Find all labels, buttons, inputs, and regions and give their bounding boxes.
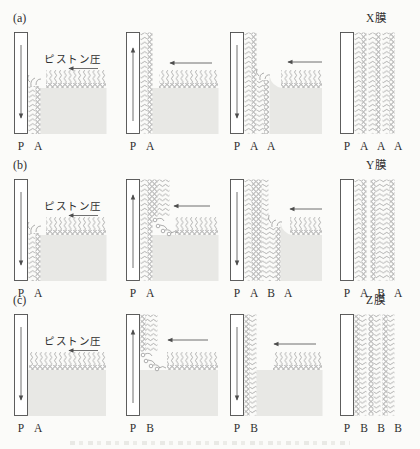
panel-c2-upstroke-deposition: P B	[122, 290, 227, 438]
depositing-layer-b-heads	[153, 180, 158, 217]
monolayer-heads	[281, 83, 322, 88]
monolayer-tails	[273, 352, 322, 365]
film-layer-a-heads	[252, 33, 257, 134]
monolayer-tails	[281, 70, 322, 83]
film-layer-a2-tails	[383, 180, 390, 281]
monolayer-tails	[46, 70, 106, 83]
plate	[341, 180, 354, 281]
panel-a4-labels: P A A A	[336, 139, 402, 153]
film-layer-b-tails	[250, 315, 257, 416]
deposited-layer-tails	[29, 233, 36, 281]
panel-a1-downstroke: P A	[10, 8, 115, 156]
label-p: P	[17, 139, 25, 153]
deposited-layer-tails	[269, 227, 276, 281]
film-layer-b-heads	[371, 180, 376, 281]
row-z-film: (c) ピストン圧 Z膜 P A	[0, 290, 420, 440]
monolayer-tails	[29, 352, 106, 365]
panel-b3-graphic	[226, 159, 331, 287]
curl-molecule-head	[167, 232, 171, 236]
monolayer-heads	[29, 365, 106, 370]
deposited-layer-heads	[36, 86, 41, 134]
film-layer-b-tails	[262, 180, 269, 281]
panel-b1-downstroke: P A	[10, 155, 115, 303]
film-layer-a2-heads	[390, 180, 395, 281]
panel-c3-second-downstroke-no-deposition: P B	[226, 290, 331, 438]
curl-molecule-head	[161, 229, 165, 233]
depositing-layer-b-heads	[141, 315, 146, 352]
panel-a4-graphic	[336, 12, 420, 140]
monolayer-tails	[46, 217, 106, 230]
film-layer-1-heads	[362, 33, 367, 134]
label-b: B	[146, 421, 154, 435]
film-layer-a-tails	[141, 180, 148, 281]
row-x-film: (a) ピストン圧 X膜 P A	[0, 8, 420, 158]
panel-c4-labels: P B B B	[336, 421, 402, 435]
panel-c4-graphic	[336, 294, 420, 422]
film-layer-b-heads	[257, 180, 262, 281]
panel-b4-graphic	[336, 159, 420, 287]
meniscus-curl	[28, 75, 41, 86]
label-b: B	[360, 421, 368, 435]
film-layer-a-heads	[362, 180, 367, 281]
film-layer-b-tails	[376, 180, 383, 281]
meniscus-curl	[28, 222, 41, 233]
curl-molecule-tails	[145, 353, 166, 368]
faint-caption-remnant	[70, 441, 350, 445]
panel-a1-graphic	[10, 12, 115, 140]
monolayer-heads	[159, 83, 218, 88]
curl-molecule-tails	[157, 218, 178, 233]
water	[28, 370, 106, 416]
deposited-layer-heads	[264, 80, 269, 134]
film-layer-a-tails	[245, 180, 252, 281]
monolayer-heads	[290, 230, 322, 235]
panel-a3-second-downstroke: P A A	[226, 8, 331, 156]
water	[41, 235, 107, 281]
panel-c1-labels: P A	[10, 421, 42, 435]
water	[153, 235, 219, 281]
film-layer-3-heads	[383, 315, 388, 416]
film-layer-a-tails	[141, 33, 148, 134]
row-y-film: (b) ピストン圧 Y膜 P A	[0, 155, 420, 305]
panel-b1-graphic	[10, 159, 115, 287]
panel-c2-graphic	[122, 294, 227, 422]
curl-molecule-head	[155, 367, 159, 371]
label-a: A	[34, 139, 42, 153]
panel-c3-graphic	[226, 294, 331, 422]
film-layer-2-tails	[374, 315, 381, 416]
curl-molecule-head	[141, 353, 145, 357]
curl-molecule-head	[153, 218, 157, 222]
label-a: A	[146, 139, 154, 153]
label-b: B	[377, 421, 385, 435]
water	[140, 370, 218, 416]
panel-b4-y-film-result: P A B A	[336, 155, 420, 303]
deposited-layer-tails	[29, 86, 36, 134]
monolayer-heads	[175, 230, 218, 235]
monolayer-heads	[46, 230, 106, 235]
monolayer-tails	[167, 352, 218, 365]
panel-a2-graphic	[122, 12, 227, 140]
monolayer-tails	[159, 70, 218, 83]
film-layer-1-heads	[355, 315, 360, 416]
film-layer-3-heads	[390, 33, 395, 134]
label-a: A	[360, 139, 368, 153]
film-layer-2-heads	[376, 33, 381, 134]
deposited-layer-tails	[257, 80, 264, 134]
panel-b2-upstroke-deposition: P A	[122, 155, 227, 303]
panel-a2-labels: P A	[122, 139, 154, 153]
panel-a3-graphic	[226, 12, 331, 140]
label-p: P	[233, 139, 241, 153]
film-layer-b-heads	[245, 315, 250, 416]
deposited-layer-heads	[36, 233, 41, 281]
panel-a4-x-film-result: P A A A	[336, 8, 420, 156]
panel-b3-second-downstroke: P A B A	[226, 155, 331, 303]
label-a: A	[34, 421, 42, 435]
panel-c2-labels: P B	[122, 421, 154, 435]
meniscus-curl	[268, 215, 282, 227]
label-b: B	[394, 421, 402, 435]
monolayer-heads	[46, 83, 106, 88]
label-a: A	[394, 139, 402, 153]
label-a: A	[250, 139, 258, 153]
monolayer-heads	[273, 365, 322, 370]
curl-molecule-head	[149, 364, 153, 368]
panel-a1-labels: P A	[10, 139, 42, 153]
